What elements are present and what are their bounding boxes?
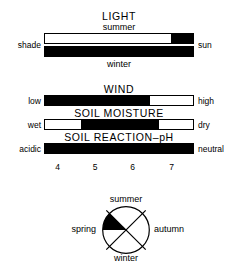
ph-tick-4: 4 — [46, 162, 70, 172]
ecological-indicator-diagram: LIGHT summer winter shade sun WIND low h… — [0, 0, 252, 268]
season-label-winter: winter — [102, 253, 150, 263]
soil-reaction-left-label: acidic — [0, 144, 41, 154]
light-right-label: sun — [198, 40, 248, 50]
light-winter-label: winter — [44, 59, 194, 69]
wind-bar-fill — [45, 96, 150, 105]
light-winter-bar-fill — [45, 47, 193, 56]
soil-moisture-bar — [44, 119, 194, 130]
light-summer-label: summer — [44, 22, 194, 32]
wind-left-label: low — [2, 96, 41, 106]
season-label-autumn: autumn — [154, 224, 216, 234]
soil-reaction-panel-title: SOIL REACTION–pH — [44, 131, 194, 143]
soil-reaction-bar-fill — [45, 144, 193, 153]
soil-moisture-bar-fill — [81, 120, 159, 129]
light-summer-bar — [44, 33, 194, 44]
wind-right-label: high — [198, 96, 248, 106]
soil-moisture-right-label: dry — [198, 120, 248, 130]
soil-moisture-left-label: wet — [2, 120, 41, 130]
season-label-summer: summer — [102, 194, 150, 204]
wind-panel-title: WIND — [44, 83, 194, 95]
season-wheel-wedge — [103, 214, 126, 231]
light-panel-title: LIGHT — [44, 10, 194, 22]
ph-tick-6: 6 — [121, 162, 145, 172]
season-wheel: summer winter spring autumn — [62, 196, 190, 264]
ph-tick-7: 7 — [160, 162, 184, 172]
soil-reaction-bar — [44, 143, 194, 154]
light-left-label: shade — [2, 40, 41, 50]
soil-moisture-panel-title: SOIL MOISTURE — [44, 107, 194, 119]
soil-reaction-right-label: neutral — [198, 144, 252, 154]
wind-bar — [44, 95, 194, 106]
light-winter-bar — [44, 46, 194, 57]
season-label-spring: spring — [34, 224, 96, 234]
light-summer-bar-fill — [171, 34, 193, 43]
ph-tick-5: 5 — [83, 162, 107, 172]
